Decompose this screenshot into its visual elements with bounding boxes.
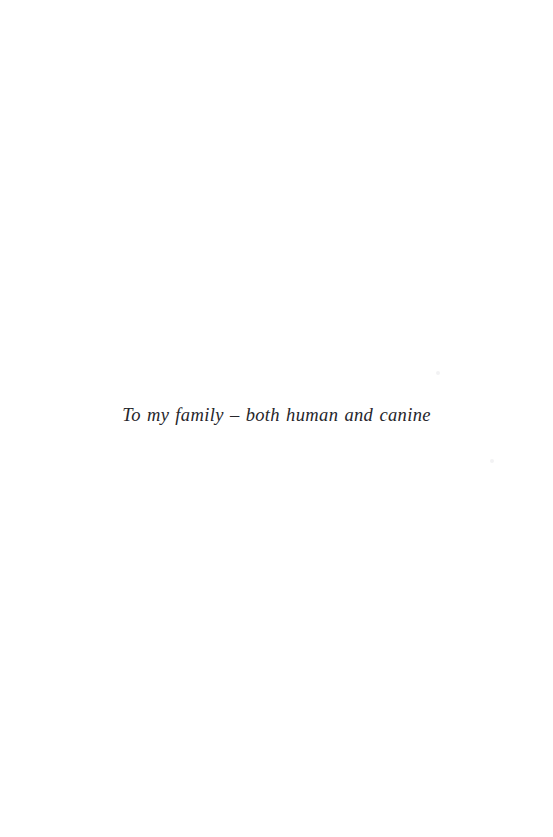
dedication-page: To my family – both human and canine — [0, 0, 553, 837]
dedication-block: To my family – both human and canine — [0, 403, 553, 427]
dedication-text: To my family – both human and canine — [122, 403, 431, 427]
scan-speck-lower-right-icon — [490, 459, 494, 463]
scan-speck-upper-right-icon — [436, 371, 440, 375]
